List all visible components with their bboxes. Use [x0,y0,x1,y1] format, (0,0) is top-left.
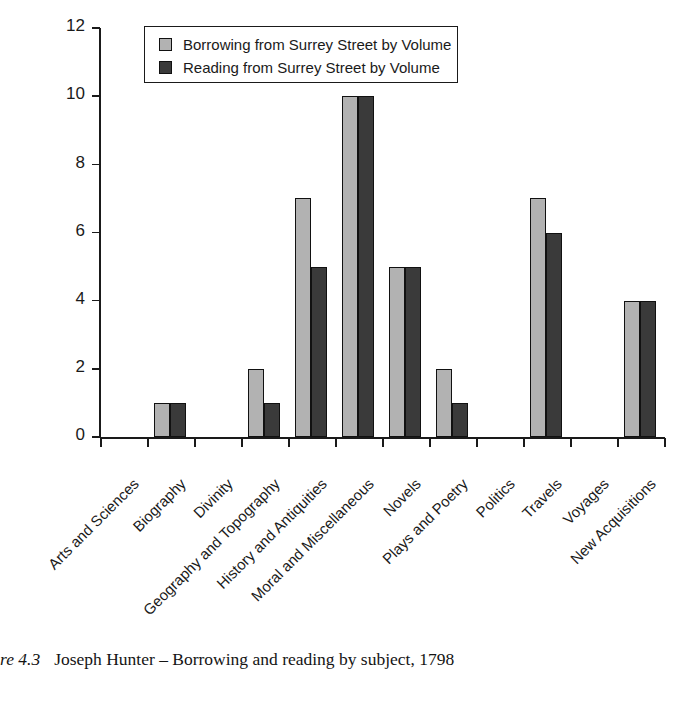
x-axis-tick [617,438,619,447]
x-axis-tick [429,438,431,447]
x-axis-label: Politics [472,475,518,521]
x-axis-label: New Acquisitions [566,475,658,567]
legend-label-borrowing: Borrowing from Surrey Street by Volume [183,36,451,54]
bar-group [147,28,194,437]
bar-reading [311,267,327,437]
bar-reading [264,403,280,437]
x-axis-label: Divinity [189,475,235,521]
bar-reading [170,403,186,437]
figure-caption: re 4.3Joseph Hunter – Borrowing and read… [0,648,694,670]
bar-group [288,28,335,437]
x-axis-tick [382,438,384,447]
legend-item-reading: Reading from Surrey Street by Volume [159,57,457,78]
y-axis-tick-label: 0 [76,425,85,445]
bar-borrowing [530,198,546,437]
x-axis-tick [335,438,337,447]
bar-group [241,28,288,437]
x-axis-tick [147,438,149,447]
bar-group [570,28,617,437]
y-axis-tick-label: 12 [66,16,85,36]
bar-group [100,28,147,437]
bar-borrowing [389,267,405,437]
legend-swatch-borrowing-icon [159,38,172,51]
bar-group [335,28,382,437]
bar-group [476,28,523,437]
bar-reading [358,96,374,437]
x-axis-tick [194,438,196,447]
figure-container: 024681012 Arts and SciencesBiographyDivi… [0,0,694,717]
y-axis-tick: 8 [92,164,100,166]
x-axis-label: Novels [379,475,423,519]
x-axis-tick [664,438,666,447]
y-axis-tick-label: 8 [76,153,85,173]
y-axis-tick: 12 [92,27,100,29]
bar-borrowing [342,96,358,437]
x-axis-label: Plays and Poetry [378,475,470,567]
y-axis-tick-label: 10 [66,84,85,104]
bar-reading [546,233,562,438]
x-axis-label: Travels [518,475,564,521]
chart-plot-area: 024681012 Arts and SciencesBiographyDivi… [100,28,664,437]
x-axis-tick [476,438,478,447]
bar-group [382,28,429,437]
legend-item-borrowing: Borrowing from Surrey Street by Volume [159,34,457,55]
bar-borrowing [624,301,640,437]
bar-borrowing [436,369,452,437]
bar-borrowing [295,198,311,437]
figure-caption-text: Joseph Hunter – Borrowing and reading by… [54,649,454,669]
x-axis-tick [241,438,243,447]
y-axis-tick-label: 4 [76,289,85,309]
y-axis-tick: 4 [92,300,100,302]
x-axis-tick [570,438,572,447]
x-axis-tick [100,438,102,447]
chart-legend: Borrowing from Surrey Street by Volume R… [144,26,458,83]
bar-group [429,28,476,437]
y-axis-tick-label: 6 [76,221,85,241]
bar-reading [405,267,421,437]
bar-borrowing [248,369,264,437]
y-axis-tick-label: 2 [76,357,85,377]
bar-group [617,28,664,437]
y-axis-tick: 10 [92,95,100,97]
x-axis-tick [288,438,290,447]
bar-group [194,28,241,437]
x-axis-label: Arts and Sciences [44,475,142,573]
bar-reading [640,301,656,437]
figure-caption-number: re 4.3 [0,649,40,669]
bar-reading [452,403,468,437]
y-axis-tick: 0 [92,436,100,438]
legend-swatch-reading-icon [159,61,172,74]
y-axis-tick: 6 [92,232,100,234]
y-axis-tick: 2 [92,368,100,370]
x-axis-tick [523,438,525,447]
bar-borrowing [154,403,170,437]
bar-group [523,28,570,437]
legend-label-reading: Reading from Surrey Street by Volume [183,59,440,77]
